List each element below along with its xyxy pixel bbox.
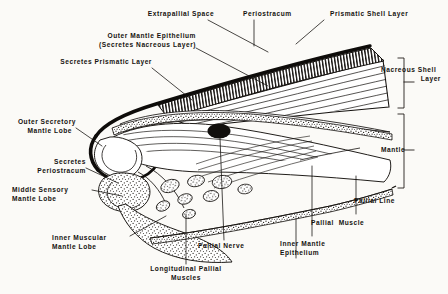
label-inner-muscular-mantle-lobe-line1: Inner Muscular (52, 234, 152, 242)
label-extrapallial-space: Extrapallial Space (118, 10, 244, 18)
label-mantle: Mantle (381, 146, 441, 154)
longitudinal-muscle-bundles (155, 174, 253, 220)
label-nacreous-shell-layer-line2: Layer (381, 75, 441, 83)
label-inner-muscular-mantle-lobe-line2: Mantle Lobe (52, 243, 152, 251)
label-secretes-prismatic-layer: Secretes Prismatic Layer (22, 58, 152, 66)
label-longitudinal-pallial-muscles-line1: Longitudinal Pallial (124, 265, 248, 273)
label-outer-mantle-epithelium-line1: Outer Mantle Epithelium (46, 32, 196, 40)
label-outer-secretory-mantle-lobe-line1: Outer Secretory (0, 118, 76, 126)
label-pallial-nerve: Pallial Nerve (198, 242, 278, 250)
label-secretes-periostracum-line1: Secretes (8, 158, 86, 166)
label-nacreous-shell-layer-line1: Nacreous Shell (381, 66, 447, 74)
label-middle-sensory-mantle-lobe-line1: Middle Sensory (12, 186, 108, 194)
pallial-nerve-section (208, 124, 231, 139)
label-pallial-muscle: Pallial Muscle (311, 219, 401, 227)
label-periostracum: Periostracum (243, 10, 323, 18)
label-outer-secretory-mantle-lobe-line2: Mantle Lobe (0, 127, 72, 135)
figure-canvas: Extrapallial Space Periostracum Prismati… (0, 0, 448, 294)
label-middle-sensory-mantle-lobe-line2: Mantle Lobe (12, 195, 108, 203)
label-inner-mantle-epithelium-line1: Inner Mantle (280, 240, 360, 248)
label-longitudinal-pallial-muscles-line2: Muscles (124, 274, 248, 282)
label-inner-mantle-epithelium-line2: Epithelium (280, 249, 360, 257)
label-outer-mantle-epithelium-line2: (Secretes Nacreous Layer) (46, 41, 196, 49)
label-pallial-line: Pallial Line (354, 197, 434, 205)
label-secretes-periostracum-line2: Periostracum (8, 167, 86, 175)
label-prismatic-shell-layer: Prismatic Shell Layer (330, 10, 445, 18)
